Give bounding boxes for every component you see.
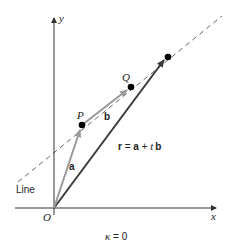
caption: κ = 0	[105, 230, 128, 242]
r-eq-b: b	[155, 141, 161, 152]
point-r-end	[165, 54, 172, 61]
point-Q-label: Q	[122, 71, 130, 83]
vector-r	[54, 60, 164, 208]
vector-line-diagram: y x O P Q a b r = a + tb Line κ = 0	[0, 0, 228, 250]
caption-eq: = 0	[110, 231, 127, 242]
point-Q	[128, 84, 135, 91]
vector-a-label: a	[69, 161, 75, 172]
origin-label: O	[43, 211, 51, 223]
dashed-line	[18, 16, 222, 182]
x-axis-label: x	[210, 210, 216, 222]
y-axis-label: y	[58, 12, 64, 24]
r-eq-equals: =	[122, 141, 133, 152]
line-label: Line	[16, 184, 35, 195]
r-equation: r = a + tb	[118, 140, 161, 152]
r-eq-t: t	[150, 140, 154, 152]
r-eq-plus: +	[139, 141, 150, 152]
vector-b-label: b	[104, 111, 110, 122]
point-P-label: P	[76, 109, 84, 121]
point-P	[79, 122, 86, 129]
